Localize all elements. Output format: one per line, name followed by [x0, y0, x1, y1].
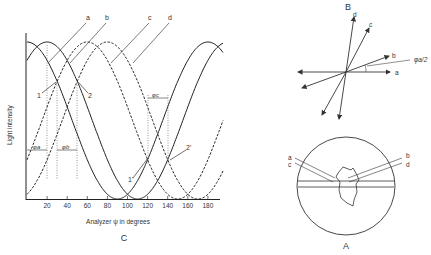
phi-c-label: φc: [152, 92, 159, 98]
x-ticks: 20406080100120140160180: [43, 196, 213, 209]
panel-a-label: A: [343, 241, 349, 251]
curve-label-d: d: [168, 14, 172, 21]
particle-outline: [336, 167, 359, 206]
curve-a: [27, 42, 223, 199]
x-tick-label: 100: [122, 202, 133, 209]
vectors: [298, 17, 390, 119]
x-axis-label: Analyzer ψ in degrees: [86, 218, 151, 226]
a-label-a: a: [288, 154, 292, 161]
panel-c-label: C: [121, 233, 128, 243]
panel-b: a b c d φa/2 B: [298, 2, 428, 119]
x-tick-label: 180: [202, 202, 213, 209]
vector-label-b: b: [392, 52, 396, 59]
curve-label-a: a: [86, 14, 90, 21]
point-label-1: 1: [37, 92, 41, 99]
x-tick-label: 60: [84, 202, 92, 209]
curve-d: [27, 42, 223, 199]
vector-label-d: d: [353, 11, 357, 18]
a-label-c: c: [288, 161, 292, 168]
angle-label: φa/2: [414, 56, 428, 64]
x-tick-label: 160: [182, 202, 193, 209]
curve-label-c: c: [148, 14, 152, 21]
a-label-d: d: [406, 161, 410, 168]
vector-label-a: a: [395, 69, 399, 76]
x-tick-label: 120: [142, 202, 153, 209]
x-tick-label: 140: [162, 202, 173, 209]
panel-a-leaders: [295, 158, 402, 182]
intensity-curves: [27, 42, 223, 199]
panel-a: a c b d A: [288, 137, 410, 251]
panel-b-label: B: [345, 2, 351, 12]
point-label-2prime: 2': [186, 144, 191, 151]
point-label-2: 2: [88, 92, 92, 99]
x-tick-label: 20: [43, 202, 51, 209]
curve-leaders: [48, 23, 169, 63]
angle-leader: [367, 60, 410, 66]
phi-b-label: φb: [62, 144, 70, 150]
point-label-1prime: 1': [128, 176, 133, 183]
figure: 20406080100120140160180 φa φb φc a b c: [0, 0, 431, 255]
phi-a-label: φa: [33, 144, 41, 150]
x-tick-label: 40: [64, 202, 72, 209]
panel-c: 20406080100120140160180 φa φb φc a b c: [6, 14, 223, 243]
curve-b: [27, 42, 223, 199]
angle-arc: [365, 65, 366, 72]
curve-c: [27, 42, 223, 199]
y-axis-label: Light intensity: [6, 104, 14, 144]
a-label-b: b: [406, 152, 410, 159]
curve-label-b: b: [105, 14, 109, 21]
vector-label-c: c: [369, 21, 373, 28]
x-tick-label: 80: [104, 202, 112, 209]
field-circle: [297, 137, 395, 235]
